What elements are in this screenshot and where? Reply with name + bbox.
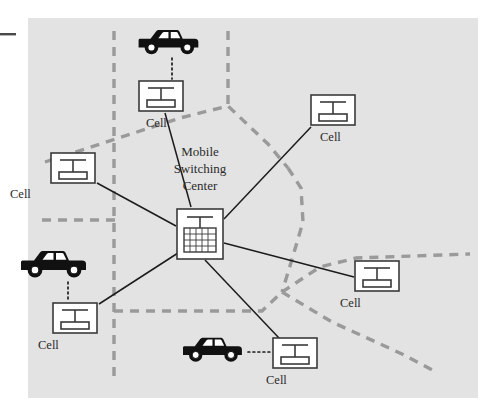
cell-label: Cell: [146, 116, 167, 130]
cell-tower-icon: [311, 95, 355, 125]
cell-tower-icon: [139, 81, 183, 111]
diagram-figure: Cell Cell Cell Cell Cell Cell: [0, 0, 498, 419]
cell-label: Cell: [38, 338, 59, 352]
cell-label: Cell: [266, 373, 287, 387]
msc-label-line-1: Mobile: [181, 144, 219, 159]
msc-label-line-3: Center: [183, 178, 218, 193]
figure-panel: [28, 18, 478, 398]
switching-center-icon: [177, 209, 223, 259]
cell-label: Cell: [320, 130, 341, 144]
cell-tower-icon: [273, 338, 317, 368]
cell-tower-icon: [53, 303, 97, 333]
cell-label: Cell: [10, 187, 31, 201]
network-diagram-canvas: Cell Cell Cell Cell Cell Cell: [0, 0, 498, 419]
cell-label: Cell: [340, 296, 361, 310]
msc-label-line-2: Switching: [174, 161, 227, 176]
cell-tower-icon: [51, 153, 95, 183]
page-edge-mark: [0, 33, 16, 35]
cell-tower-icon: [355, 261, 399, 291]
